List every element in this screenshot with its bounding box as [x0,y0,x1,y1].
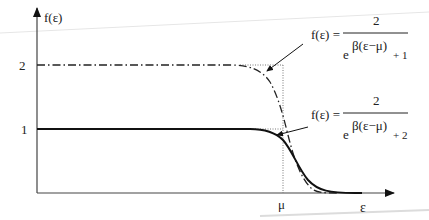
formula-top-numerator: 2 [373,13,380,28]
formula-top: f(ε) = 2 e β(ε−μ) + 1 [311,13,408,62]
formula-bottom-tail: + 2 [393,129,407,141]
scan-edge-top [0,12,429,33]
formula-bottom: f(ε) = 2 e β(ε−μ) + 2 [311,93,408,142]
formula-bottom-exp-base: e [343,127,349,142]
pointer-arrow-top [267,44,303,71]
formula-top-lhs: f(ε) = [311,27,340,42]
formula-bottom-numerator: 2 [373,93,380,108]
x-tick-mu: μ [278,197,285,212]
y-axis-label: f(ε) [44,10,62,25]
y-tick-2: 2 [19,58,26,73]
scan-edge-bottom [260,210,429,216]
formula-top-exponent: β(ε−μ) [352,38,387,53]
fermi-distribution-diagram: f(ε) ε 2 1 μ f(ε) = 2 e β(ε−μ) + 1 f(ε) … [0,0,429,220]
y-tick-1: 1 [21,122,28,137]
formula-top-tail: + 1 [393,49,407,61]
x-axis-label: ε [360,200,366,215]
formula-top-exp-base: e [343,47,349,62]
solid-curve-lower [37,129,362,193]
pointer-arrow-bottom [277,127,308,135]
formula-bottom-exponent: β(ε−μ) [352,118,387,133]
formula-bottom-lhs: f(ε) = [311,107,340,122]
